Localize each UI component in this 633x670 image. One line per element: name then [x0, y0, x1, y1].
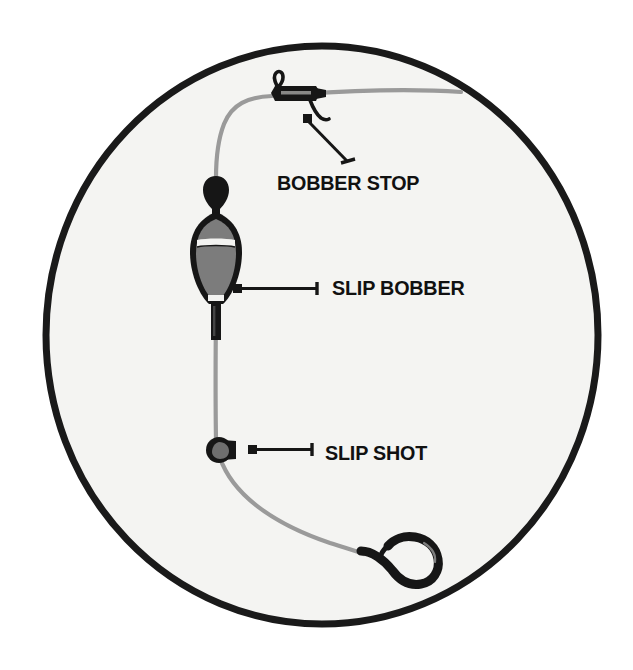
callout-label-bobber-stop: BOBBER STOP — [277, 172, 419, 193]
callout-label-slip-bobber: SLIP BOBBER — [332, 277, 464, 298]
circular-frame — [46, 46, 598, 624]
slip-shot-sinker — [206, 437, 236, 463]
callout-label-slip-shot: SLIP SHOT — [325, 442, 427, 463]
illustration-canvas: BOBBER STOP SLIP BOBBER SLIP SHOT — [0, 0, 633, 670]
slip-bobber-rig-diagram — [0, 0, 633, 670]
